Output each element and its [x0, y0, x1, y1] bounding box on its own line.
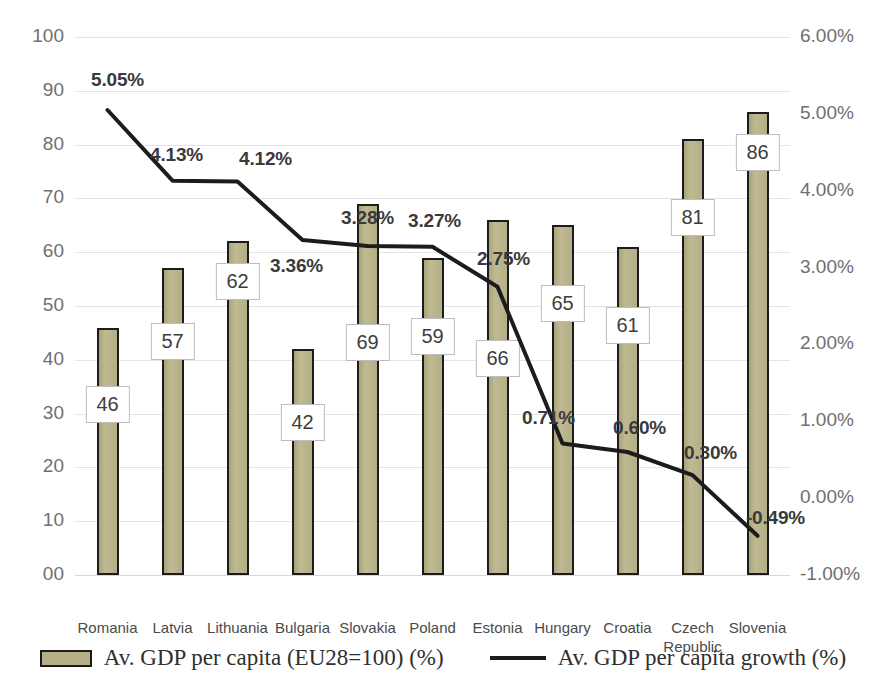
gridline	[75, 37, 790, 38]
line-value-label: 0.30%	[684, 442, 737, 464]
bar-fill	[619, 249, 637, 573]
left-axis-tick-label: 00	[6, 563, 64, 585]
line-value-label: 4.12%	[239, 148, 292, 170]
bar[interactable]	[747, 112, 769, 575]
legend-item-bar[interactable]: Av. GDP per capita (EU28=100) (%)	[40, 645, 444, 671]
bar-fill	[749, 114, 767, 573]
bar-fill	[359, 206, 377, 573]
legend-line-swatch-icon	[490, 656, 546, 660]
left-axis-tick-label: 40	[6, 348, 64, 370]
bar-value-label: 69	[345, 324, 389, 361]
left-axis-tick-label: 30	[6, 402, 64, 424]
x-axis-label: Bulgaria	[275, 619, 330, 638]
right-axis-tick-label: 6.00%	[800, 25, 854, 47]
line-value-label: 0.60%	[613, 417, 666, 439]
right-axis-tick-label: -1.00%	[800, 563, 860, 585]
right-axis-tick-label: 0.00%	[800, 486, 854, 508]
x-axis-label: Lithuania	[207, 619, 268, 638]
bar[interactable]	[292, 349, 314, 575]
bar[interactable]	[487, 220, 509, 575]
left-axis-tick-label: 60	[6, 240, 64, 262]
left-axis-tick-label: 70	[6, 186, 64, 208]
bar-value-label: 86	[735, 134, 779, 171]
bar-fill	[294, 351, 312, 573]
bar[interactable]	[617, 247, 639, 575]
x-axis-label: Latvia	[152, 619, 192, 638]
right-axis-tick-label: 5.00%	[800, 102, 854, 124]
line-value-label: -0.49%	[746, 507, 805, 529]
x-axis-label: Croatia	[603, 619, 651, 638]
right-axis-tick-label: 4.00%	[800, 179, 854, 201]
x-axis-label: Estonia	[472, 619, 522, 638]
gridline	[75, 575, 790, 576]
line-value-label: 4.13%	[150, 144, 203, 166]
bar[interactable]	[97, 328, 119, 575]
bar-value-label: 66	[475, 340, 519, 377]
right-axis-tick-label: 2.00%	[800, 332, 854, 354]
bar-value-label: 81	[670, 199, 714, 236]
bar-value-label: 65	[540, 285, 584, 322]
chart-legend: Av. GDP per capita (EU28=100) (%) Av. GD…	[0, 645, 886, 671]
line-value-label: 2.75%	[477, 248, 530, 270]
left-axis-tick-label: 90	[6, 79, 64, 101]
left-axis-tick-label: 50	[6, 294, 64, 316]
bar-fill	[489, 222, 507, 573]
bar-fill	[99, 330, 117, 573]
legend-item-line[interactable]: Av. GDP per capita growth (%)	[490, 645, 846, 671]
right-axis-tick-label: 3.00%	[800, 256, 854, 278]
chart-root: 10090807060504030201000 6.00%5.00%4.00%3…	[0, 0, 886, 694]
bar-fill	[554, 227, 572, 573]
x-axis-label: Slovakia	[339, 619, 396, 638]
legend-label-bar: Av. GDP per capita (EU28=100) (%)	[104, 645, 444, 671]
plot-area: 5.05%4.13%4.12%3.36%3.28%3.27%2.75%0.71%…	[75, 37, 790, 575]
bar[interactable]	[357, 204, 379, 575]
x-axis-label: Poland	[409, 619, 456, 638]
left-axis-tick-label: 100	[6, 25, 64, 47]
bar-value-label: 61	[605, 307, 649, 344]
line-value-label: 3.36%	[270, 255, 323, 277]
left-axis-tick-label: 80	[6, 133, 64, 155]
line-value-label: 5.05%	[91, 69, 144, 91]
line-value-label: 3.27%	[408, 210, 461, 232]
x-axis-label: Romania	[77, 619, 137, 638]
right-axis-tick-label: 1.00%	[800, 409, 854, 431]
bar[interactable]	[552, 225, 574, 575]
bar-fill	[424, 260, 442, 573]
line-value-label: 0.71%	[522, 407, 575, 429]
legend-bar-swatch-icon	[40, 650, 92, 667]
bar-value-label: 46	[85, 386, 129, 423]
bar-value-label: 59	[410, 318, 454, 355]
bar[interactable]	[422, 258, 444, 575]
line-value-label: 3.28%	[341, 207, 394, 229]
legend-label-line: Av. GDP per capita growth (%)	[558, 645, 846, 671]
bar[interactable]	[162, 268, 184, 575]
bar-value-label: 42	[280, 404, 324, 441]
x-axis-label: Hungary	[534, 619, 591, 638]
x-axis-label: Slovenia	[729, 619, 787, 638]
bar-fill	[164, 270, 182, 573]
bar-value-label: 57	[150, 323, 194, 360]
gridline	[75, 91, 790, 92]
bar-value-label: 62	[215, 263, 259, 300]
left-axis-tick-label: 10	[6, 509, 64, 531]
left-axis-tick-label: 20	[6, 455, 64, 477]
